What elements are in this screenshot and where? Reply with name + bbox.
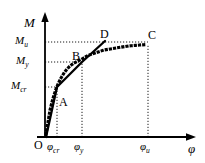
origin-label: O: [34, 139, 43, 151]
y-tick-mcr-sub: cr: [20, 85, 26, 94]
point-label-a: A: [59, 96, 68, 108]
x-axis-arrowhead: [186, 133, 196, 140]
x-tick-label-phiu: φu: [140, 141, 150, 152]
point-label-d: D: [100, 28, 109, 40]
y-axis-label: M: [24, 16, 35, 29]
x-tick-label-phiy: φy: [74, 141, 83, 152]
y-tick-mu-sub: u: [24, 40, 28, 49]
x-tick-phiy-sub: y: [80, 146, 83, 155]
x-tick-phiu-sub: u: [146, 146, 150, 155]
moment-curvature-figure: M φ O Mu My Mcr φcr φy φu A B D C: [0, 0, 205, 163]
y-tick-mcr-base: M: [11, 79, 20, 91]
point-label-c: C: [148, 29, 156, 41]
x-axis-label: φ: [188, 142, 195, 155]
y-tick-label-mcr: Mcr: [11, 80, 26, 91]
point-label-b: B: [72, 50, 80, 62]
y-tick-label-my: My: [16, 55, 29, 66]
x-tick-label-phicr: φcr: [47, 141, 59, 152]
y-axis-arrowhead: [41, 12, 48, 22]
actual-response-curve: [46, 45, 146, 134]
y-tick-mu-base: M: [15, 34, 24, 46]
y-tick-my-base: M: [16, 54, 25, 66]
y-tick-my-sub: y: [25, 60, 28, 69]
y-tick-label-mu: Mu: [15, 35, 28, 46]
x-tick-phicr-sub: cr: [53, 146, 59, 155]
